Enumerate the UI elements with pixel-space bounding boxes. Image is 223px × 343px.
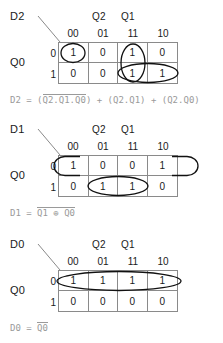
kmap-d0-col-header-2: 11 <box>118 256 148 267</box>
kmap-d1-col-header-1: 01 <box>88 141 118 152</box>
kmap-d0-column-var-left: Q2 <box>92 239 106 250</box>
kmap-d2-row-var: Q0 <box>10 56 25 68</box>
kmap-d2-equation-plus-1: + <box>97 95 102 105</box>
kmap-d2-equation-term-3-close: ) <box>194 95 199 105</box>
kmap-d2-cell-r1c1: 0 <box>89 63 119 83</box>
kmap-d1-col-header-2: 11 <box>118 141 148 152</box>
kmap-d0-cell-r1c0: 0 <box>59 291 89 311</box>
kmap-d0-cell-r1c1: 0 <box>89 291 119 311</box>
kmap-d0-equation-operator-eq: = <box>26 323 31 333</box>
kmap-d2: D2 Q2 Q1 00 01 11 10 Q0 0 1 1 0 1 0 0 0 … <box>0 0 223 115</box>
kmap-d2-cell-r1c2: 1 <box>118 63 148 83</box>
kmap-d1-row-header-1: 1 <box>44 182 56 193</box>
kmap-d2-cell-r0c1: 0 <box>89 43 119 63</box>
kmap-d0-col-header-0: 00 <box>58 256 88 267</box>
kmap-d1-row-header-0: 0 <box>44 161 56 172</box>
kmap-d0-equation-body: Q0 <box>37 322 48 333</box>
kmap-d1-function-label: D1 <box>10 123 24 135</box>
kmap-d0-row-header-0: 0 <box>44 276 56 287</box>
kmap-d2-col-header-0: 00 <box>58 28 88 39</box>
kmap-d0-equation-lhs: D0 <box>10 323 21 333</box>
kmap-d1-cell-r0c0: 1 <box>59 156 89 176</box>
kmap-d0-row-var: Q0 <box>10 284 25 296</box>
kmap-d2-cell-r0c0: 1 <box>59 43 89 63</box>
kmap-d2-column-var-left: Q2 <box>92 11 106 22</box>
kmap-d1-col-header-0: 00 <box>58 141 88 152</box>
kmap-d1-column-var-right: Q1 <box>121 124 135 135</box>
kmap-d2-equation-term-1-close: ) <box>86 95 91 105</box>
kmap-d2-col-header-2: 11 <box>118 28 148 39</box>
kmap-d0-equation: D0 = Q0 <box>10 322 48 333</box>
kmap-d0-function-label: D0 <box>10 238 24 250</box>
kmap-d1-cell-r1c1: 1 <box>89 176 119 196</box>
kmap-d0-col-header-1: 01 <box>88 256 118 267</box>
kmap-d0-cell-r0c0: 1 <box>59 271 89 291</box>
kmap-d1-equation-body: Q1 ⊕ Q0 <box>37 207 75 218</box>
kmap-d1-cell-r1c0: 0 <box>59 176 89 196</box>
kmap-d2-equation-operator-eq: = <box>26 95 31 105</box>
kmap-d1: D1 Q2 Q1 00 01 11 10 Q0 0 1 1 0 0 1 0 1 … <box>0 113 223 228</box>
kmap-d1-cell-r1c3: 0 <box>148 176 178 196</box>
kmap-d1-cell-r0c2: 0 <box>118 156 148 176</box>
kmap-d1-equation-lhs: D1 <box>10 208 21 218</box>
kmap-d2-equation-term-1-body: Q2.Q1.Q0 <box>43 94 86 105</box>
kmap-d2-grid: 1 0 1 0 0 0 1 1 <box>58 42 178 84</box>
kmap-d0-cell-r0c1: 1 <box>89 271 119 291</box>
kmap-d1-cell-r0c3: 1 <box>148 156 178 176</box>
kmap-d2-cell-r1c3: 1 <box>148 63 178 83</box>
kmap-d0-cell-r0c2: 1 <box>118 271 148 291</box>
kmap-d2-row-header-1: 1 <box>44 69 56 80</box>
kmap-d1-cell-r0c1: 0 <box>89 156 119 176</box>
kmap-d0-cell-r1c2: 0 <box>118 291 148 311</box>
kmap-d2-cell-r0c3: 0 <box>148 43 178 63</box>
kmap-d2-equation-term-3-body: Q2.Q0 <box>167 95 194 105</box>
kmap-d2-cell-r1c0: 0 <box>59 63 89 83</box>
kmap-d1-grid: 1 0 0 1 0 1 1 0 <box>58 155 178 197</box>
kmap-d0: D0 Q2 Q1 00 01 11 10 Q0 0 1 1 1 1 1 0 0 … <box>0 228 223 343</box>
kmap-d1-row-var: Q0 <box>10 169 25 181</box>
kmap-d1-equation-operator-eq: = <box>26 208 31 218</box>
kmap-d2-function-label: D2 <box>10 10 24 22</box>
kmap-d2-equation-term-2-close: ) <box>140 95 145 105</box>
kmap-d1-col-header-3: 10 <box>148 141 178 152</box>
kmap-d2-equation-term-2-body: Q2.Q1 <box>113 95 140 105</box>
kmap-d0-column-var-right: Q1 <box>121 239 135 250</box>
kmap-d1-column-var-left: Q2 <box>92 124 106 135</box>
kmap-d2-col-header-3: 10 <box>148 28 178 39</box>
kmap-d2-cell-r0c2: 1 <box>118 43 148 63</box>
kmap-d0-grid: 1 1 1 1 0 0 0 0 <box>58 270 178 312</box>
kmap-d2-equation: D2 = (Q2.Q1.Q0) + (Q2.Q1) + (Q2.Q0) <box>10 94 200 105</box>
kmap-d2-column-var-right: Q1 <box>121 11 135 22</box>
kmap-d0-cell-r1c3: 0 <box>148 291 178 311</box>
kmap-d2-equation-plus-2: + <box>151 95 156 105</box>
kmap-d0-row-header-1: 1 <box>44 297 56 308</box>
kmap-d2-row-header-0: 0 <box>44 48 56 59</box>
kmap-d0-col-header-3: 10 <box>148 256 178 267</box>
kmap-d0-cell-r0c3: 1 <box>148 271 178 291</box>
kmap-d1-equation: D1 = Q1 ⊕ Q0 <box>10 207 75 218</box>
kmap-d1-cell-r1c2: 1 <box>118 176 148 196</box>
kmap-d2-equation-lhs: D2 <box>10 95 21 105</box>
kmap-d2-col-header-1: 01 <box>88 28 118 39</box>
